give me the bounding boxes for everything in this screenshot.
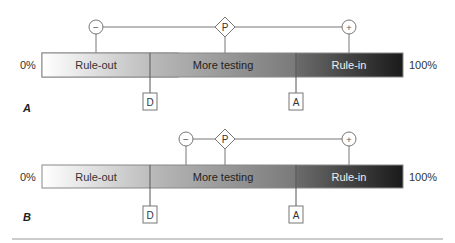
svg-text:+: + bbox=[346, 135, 351, 145]
zone-rule-in: Rule-in bbox=[332, 59, 367, 71]
probability-threshold-diagram: 0% 100% Rule-out More testing Rule-in − … bbox=[0, 0, 455, 243]
panel-label-a: A bbox=[22, 102, 31, 114]
hundred-percent-label: 100% bbox=[409, 171, 437, 183]
zone-rule-out: Rule-out bbox=[75, 171, 117, 183]
zone-more-testing: More testing bbox=[193, 171, 254, 183]
zero-percent-label: 0% bbox=[20, 59, 36, 71]
svg-text:A: A bbox=[293, 210, 300, 221]
svg-text:D: D bbox=[146, 97, 153, 108]
zone-rule-out: Rule-out bbox=[75, 59, 117, 71]
panel-label-b: B bbox=[23, 211, 31, 223]
svg-text:D: D bbox=[146, 210, 153, 221]
svg-text:−: − bbox=[183, 134, 189, 145]
zero-percent-label: 0% bbox=[20, 171, 36, 183]
panel-a: 0% 100% Rule-out More testing Rule-in − … bbox=[20, 17, 437, 114]
hundred-percent-label: 100% bbox=[409, 59, 437, 71]
svg-text:+: + bbox=[346, 23, 351, 33]
panel-b: 0% 100% Rule-out More testing Rule-in − … bbox=[20, 129, 437, 223]
svg-text:P: P bbox=[222, 22, 229, 33]
zone-more-testing: More testing bbox=[193, 59, 254, 71]
zone-rule-in: Rule-in bbox=[332, 171, 367, 183]
svg-text:P: P bbox=[222, 134, 229, 145]
svg-text:A: A bbox=[293, 97, 300, 108]
svg-text:−: − bbox=[93, 22, 99, 33]
